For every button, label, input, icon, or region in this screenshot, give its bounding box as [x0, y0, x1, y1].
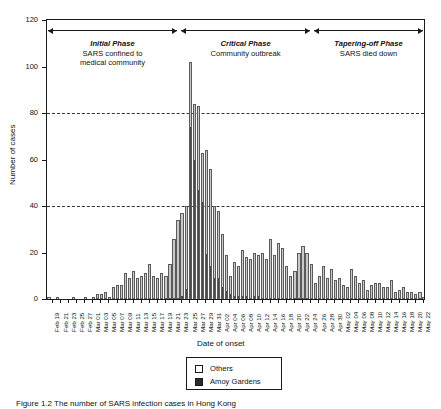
bar [225, 255, 228, 299]
legend-item-others: Others [195, 364, 233, 373]
x-tick-label: May 04 [353, 312, 359, 332]
x-tick-mark [133, 300, 134, 303]
legend-swatch-amoy-gardens [195, 378, 203, 386]
bar [346, 287, 349, 299]
bar [362, 280, 365, 299]
phase-title: Tapering-off Phase [314, 39, 423, 49]
bar-segment-others [234, 263, 235, 296]
x-tick-mark [278, 300, 279, 303]
bar [221, 234, 224, 299]
bar-segment-others [347, 288, 348, 298]
x-tick-label: Mar 09 [127, 313, 133, 332]
bar-segment-others [311, 265, 312, 298]
x-tick-mark [181, 300, 182, 303]
arrow-head-left-icon [181, 28, 186, 34]
bar-segment-others [343, 286, 344, 298]
x-tick-label: Mar 31 [216, 313, 222, 332]
bar [47, 297, 50, 299]
y-tick-label: 120 [12, 16, 38, 24]
bar [342, 285, 345, 299]
bar-segment-others [270, 240, 271, 298]
bar-segment-others [186, 207, 187, 289]
bar-segment-others [274, 256, 275, 298]
bar [301, 246, 304, 299]
bar-segment-others [391, 281, 392, 298]
bar-segment-others [121, 286, 122, 298]
figure-caption: Figure 1.2 The number of SARS infection … [16, 399, 436, 409]
bar-segment-others [298, 254, 299, 299]
x-tick-label: Apr 02 [224, 314, 230, 332]
bar [237, 266, 240, 299]
x-tick-mark [367, 300, 368, 303]
x-tick-label: Mar 23 [183, 313, 189, 332]
x-tick-mark [125, 300, 126, 303]
bar-segment-others [278, 244, 279, 298]
bar-segment-amoy-gardens [214, 278, 215, 298]
x-tick-label: Apr 24 [312, 314, 318, 332]
x-tick-mark [375, 300, 376, 303]
x-tick-label: Feb 21 [63, 313, 69, 332]
arrow-head-right-icon [305, 28, 310, 34]
bar-segment-others [351, 270, 352, 298]
bar-segment-others [415, 295, 416, 298]
x-tick-mark [270, 300, 271, 303]
x-tick-label: Apr 14 [272, 314, 278, 332]
bar [148, 264, 151, 299]
x-tick-label: Apr 16 [280, 314, 286, 332]
legend-swatch-others [195, 365, 203, 373]
phase-range-arrow [181, 30, 310, 31]
bar [140, 276, 143, 299]
arrow-head-left-icon [48, 28, 53, 34]
x-tick-mark [84, 300, 85, 303]
bar-segment-others [149, 265, 150, 298]
bar [338, 278, 341, 299]
bar-segment-others [419, 293, 420, 298]
bar [116, 285, 119, 299]
bar-segment-amoy-gardens [222, 287, 223, 298]
bar-segment-others [302, 247, 303, 298]
bar-segment-amoy-gardens [181, 296, 182, 298]
bar [261, 253, 264, 300]
x-tick-label: Mar 21 [175, 313, 181, 332]
x-tick-label: Apr 26 [321, 314, 327, 332]
x-tick-label: Mar 11 [135, 313, 141, 332]
x-tick-label: May 02 [345, 312, 351, 332]
legend-label-amoy-gardens: Amoy Gardens [210, 377, 261, 386]
phase-subtitle: SARS died down [314, 49, 423, 59]
bar-segment-amoy-gardens [198, 190, 199, 298]
bar [394, 292, 397, 299]
bar [318, 276, 321, 299]
bar-segment-others [403, 288, 404, 298]
x-tick-mark [60, 300, 61, 303]
bar-segment-others [222, 235, 223, 287]
x-tick-label: Mar 05 [111, 313, 117, 332]
x-tick-mark [221, 300, 222, 303]
bar-segment-others [129, 279, 130, 298]
x-tick-mark [173, 300, 174, 303]
x-tick-label: Mar 25 [192, 313, 198, 332]
x-tick-label: Apr 28 [329, 314, 335, 332]
bar [241, 250, 244, 299]
legend-item-amoy-gardens: Amoy Gardens [195, 377, 261, 386]
bar [293, 271, 296, 299]
x-tick-mark [391, 300, 392, 303]
bar [249, 259, 252, 299]
bar-segment-others [367, 291, 368, 298]
bar-segment-amoy-gardens [242, 296, 243, 298]
x-tick-mark [358, 300, 359, 303]
x-tick-mark [238, 300, 239, 303]
x-tick-label: Apr 20 [296, 314, 302, 332]
bar-segment-others [198, 107, 199, 190]
x-tick-mark [407, 300, 408, 303]
bar-segment-others [407, 293, 408, 298]
bar-segment-others [194, 105, 195, 160]
y-tick-label: 20 [12, 249, 38, 257]
phase-subtitle: SARS confined to [48, 49, 177, 59]
x-tick-label: Apr 12 [264, 314, 270, 332]
x-tick-label: Feb 27 [87, 313, 93, 332]
x-tick-mark [254, 300, 255, 303]
bar [285, 266, 288, 299]
bar [233, 262, 236, 299]
bar [386, 287, 389, 299]
bar-segment-others [371, 286, 372, 298]
